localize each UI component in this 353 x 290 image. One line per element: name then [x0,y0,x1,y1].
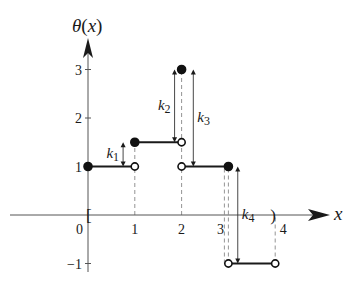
x-tick-label: 3 [217,222,224,237]
jump-label-sub: 2 [165,102,171,116]
open-endpoint [131,163,138,170]
jump-label-sub: 4 [248,211,254,225]
domain-left-bracket: [ [86,206,92,225]
y-label-theta: θ [72,15,81,36]
x-tick-label: 4 [280,222,287,237]
closed-endpoint [84,163,92,171]
jump-3: k3 [191,70,210,167]
open-endpoint [225,260,232,267]
jump-label: k2 [158,97,171,116]
jump-label: k3 [197,109,210,128]
y-tick-label: −1 [67,257,82,272]
jump-1: k1 [106,142,125,166]
domain-right-bracket: ) [270,206,276,225]
arrowhead-up-icon [191,70,196,75]
open-endpoint [272,260,279,267]
open-endpoint [178,163,185,170]
x-tick-label: 2 [178,222,185,237]
x-axis-label: x [333,203,343,224]
closed-endpoint [131,138,139,146]
arrowhead-up-icon [172,70,177,75]
y-axis-label: θ(x) [72,15,102,37]
jump-label: k4 [242,206,255,225]
y-label-paren-close: ) [96,15,102,37]
open-endpoint [178,139,185,146]
jump-label-sub: 1 [113,150,119,164]
arrowhead-up-icon [235,167,240,172]
y-tick-label: 1 [75,160,82,175]
closed-endpoint [224,163,232,171]
closed-endpoint [178,66,186,74]
jump-4: k4 [235,167,254,264]
y-tick-label: 2 [75,111,82,126]
jump-2: k2 [158,70,177,143]
step-function-diagram: x θ(x) −112301234 [ ) k1k2k3k4 [0,0,353,290]
y-tick-label: 3 [75,63,82,78]
x-tick-label: 0 [76,222,83,237]
axes: x θ(x) [10,15,343,272]
x-tick-label: 1 [131,222,138,237]
jump-label-sub: 3 [204,114,210,128]
jump-label: k1 [106,145,119,164]
arrowhead-up-icon [121,142,126,147]
